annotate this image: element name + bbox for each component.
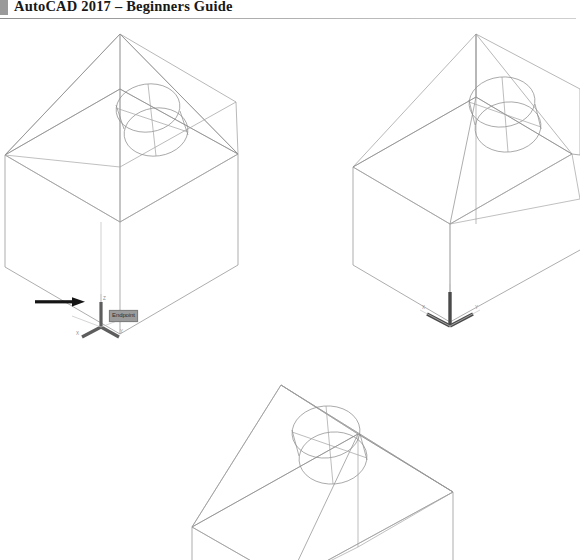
arrow-icon xyxy=(35,297,85,306)
page-title: AutoCAD 2017 – Beginners Guide xyxy=(14,0,233,15)
cad-figure-3 xyxy=(178,382,578,560)
pointer-arrow xyxy=(33,294,87,310)
header-divider-rule xyxy=(0,18,576,19)
ucs-axis-label-y: Y xyxy=(475,305,478,310)
ucs-icon-xy-vee: X Y xyxy=(420,284,480,326)
ucs-axis-label-z: Z xyxy=(103,296,106,301)
ucs-axis-label-y: Y xyxy=(120,329,123,334)
header-marker-bar xyxy=(0,0,8,15)
page-header: AutoCAD 2017 – Beginners Guide xyxy=(0,0,576,20)
ucs-axis-label-x: X xyxy=(76,331,79,336)
osnap-endpoint-tooltip: Endpoint xyxy=(109,310,138,322)
cad-figure-2: X Y xyxy=(336,24,580,340)
cad-figure-1: Z X Y xyxy=(0,24,250,340)
ucs-axis-label-x: X xyxy=(422,305,425,310)
